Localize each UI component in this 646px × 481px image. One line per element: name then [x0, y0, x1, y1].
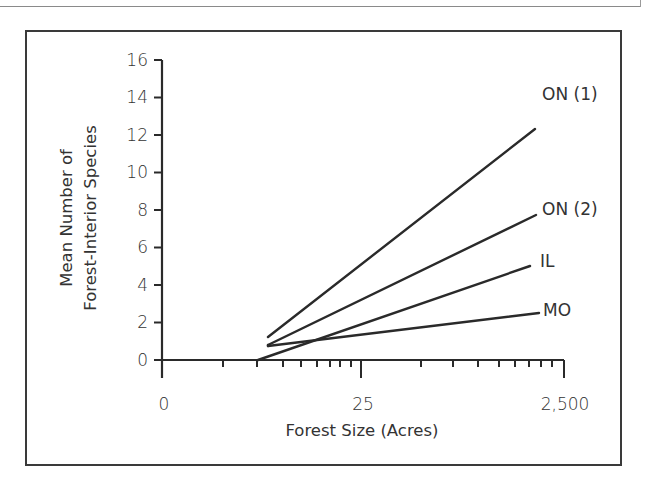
y-ticks	[154, 60, 162, 360]
series-label-on2: ON (2)	[542, 199, 598, 219]
chart-plot: 0 2 4 6 8 10 12 14 16 0 25 2,500 Forest …	[0, 0, 646, 481]
y-axis-title-line2: Forest-Interior Species	[81, 125, 100, 311]
y-tick-label: 10	[126, 162, 148, 182]
y-tick-label: 6	[137, 237, 148, 257]
series-line-mo	[268, 313, 539, 346]
y-tick-label: 4	[137, 275, 148, 295]
x-tick-label-2500: 2,500	[541, 394, 590, 414]
y-tick-label: 8	[137, 200, 148, 220]
x-tick-label-25: 25	[352, 394, 374, 414]
x-minor-ticks	[223, 360, 552, 367]
y-axis-title-line1: Mean Number of	[57, 148, 76, 287]
x-axis-title: Forest Size (Acres)	[285, 421, 438, 440]
y-tick-label: 16	[126, 50, 148, 70]
series-label-on1: ON (1)	[542, 84, 598, 104]
series-label-mo: MO	[543, 300, 571, 320]
y-tick-label: 12	[126, 125, 148, 145]
x-tick-label-0: 0	[159, 394, 170, 414]
series-label-il: IL	[540, 251, 555, 271]
series-line-on1	[268, 129, 535, 337]
y-tick-label: 14	[126, 87, 148, 107]
series-line-on2	[268, 215, 536, 345]
y-tick-label: 2	[137, 312, 148, 332]
y-tick-label: 0	[137, 350, 148, 370]
